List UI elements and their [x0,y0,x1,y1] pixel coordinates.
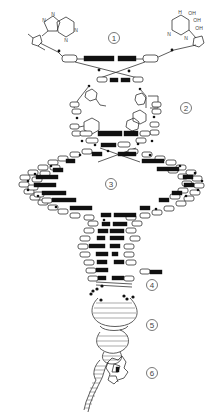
stage-label-text: 5 [150,321,155,330]
stage-label-text: 6 [150,369,155,378]
atom-label: OH [195,25,203,31]
stage-label-6: 6 [147,368,158,379]
atom-label: N [74,27,78,33]
stage-label-2: 2 [181,103,192,114]
dna-structure-diagram: N N N N H OH OH OH N N [0,0,216,418]
stage-label-text: 3 [109,180,114,189]
pyrimidine-base-molecule: H OH OH OH N N [167,9,204,47]
stage-label-4: 4 [147,280,158,291]
atom-label: N [64,37,68,43]
stage-label-1: 1 [109,33,120,44]
stage-label-text: 2 [184,104,189,113]
stage-label-5: 5 [147,320,158,331]
stage-label-3: 3 [106,179,117,190]
purine-base-molecule: N N N N [28,11,78,50]
atom-label: N [184,35,188,41]
stage-label-text: 4 [150,281,155,290]
stage-6-chromatin-fiber [84,356,128,412]
atom-label: OH [193,17,201,23]
atom-label: H [178,9,182,15]
atom-label: OH [188,10,196,16]
atom-label: N [167,31,171,37]
stage-label-text: 1 [112,34,117,43]
atom-label: N [42,17,46,23]
stage-5-compact-helix [92,298,137,364]
atom-label: N [51,11,55,17]
